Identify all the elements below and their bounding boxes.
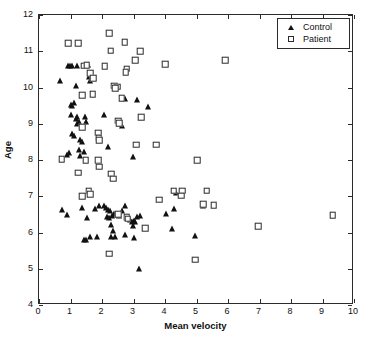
data-point-control — [101, 111, 107, 117]
x-tick-label: 1 — [67, 306, 72, 316]
data-point-control — [137, 213, 143, 219]
data-point-control — [130, 154, 136, 160]
filled-triangle-icon — [284, 25, 298, 30]
y-tick-label: 12 — [23, 9, 33, 19]
data-point-patient — [329, 212, 336, 219]
data-point-patient — [96, 137, 103, 144]
x-axis-tick — [354, 299, 355, 303]
data-point-patient — [194, 157, 201, 164]
data-point-control — [134, 97, 140, 103]
y-tick-label: 7 — [28, 190, 33, 200]
data-point-patient — [121, 39, 128, 46]
data-point-patient — [89, 91, 96, 98]
y-tick-label: 8 — [28, 154, 33, 164]
data-points-layer — [39, 15, 352, 303]
y-tick-label: 5 — [28, 263, 33, 273]
y-tick-label: 10 — [23, 82, 33, 92]
data-point-patient — [178, 192, 185, 199]
data-point-patient — [122, 69, 129, 76]
data-point-control — [79, 138, 85, 144]
data-point-patient — [106, 30, 113, 37]
x-tick-label: 7 — [256, 306, 261, 316]
legend-item-patient: Patient — [278, 33, 349, 45]
data-point-patient — [112, 85, 119, 92]
data-point-control — [94, 233, 100, 239]
scatter-plot-figure: 012345678910 456789101112 Mean velocity … — [0, 0, 367, 341]
data-point-patient — [84, 62, 91, 69]
x-tick-label: 6 — [224, 306, 229, 316]
data-point-patient — [79, 193, 86, 200]
data-point-control — [169, 225, 175, 231]
data-point-control — [122, 232, 128, 238]
data-point-patient — [203, 188, 210, 195]
x-axis-title: Mean velocity — [38, 320, 353, 331]
x-tick-label: 8 — [287, 306, 292, 316]
data-point-patient — [138, 114, 145, 121]
data-point-patient — [222, 57, 229, 64]
data-point-patient — [101, 63, 108, 70]
plot-area — [38, 14, 353, 304]
data-point-patient — [90, 75, 97, 82]
data-point-control — [87, 233, 93, 239]
data-point-patient — [115, 211, 122, 218]
data-point-patient — [156, 197, 163, 204]
data-point-patient — [108, 47, 115, 54]
data-point-control — [171, 205, 177, 211]
y-tick-label: 11 — [24, 45, 33, 55]
x-tick-label: 9 — [319, 306, 324, 316]
legend-label-patient: Patient — [298, 34, 331, 44]
data-point-patient — [132, 57, 139, 64]
data-point-patient — [79, 124, 86, 131]
y-tick-label: 9 — [28, 118, 33, 128]
data-point-patient — [75, 169, 82, 176]
data-point-control — [110, 227, 116, 233]
data-point-control — [105, 144, 111, 150]
data-point-control — [163, 210, 169, 216]
x-axis-tick — [354, 15, 355, 19]
data-point-control — [64, 212, 70, 218]
y-tick-label: 6 — [28, 227, 33, 237]
x-tick-label: 2 — [98, 306, 103, 316]
data-point-patient — [137, 48, 144, 55]
x-tick-label: 3 — [130, 306, 135, 316]
x-tick-label: 5 — [193, 306, 198, 316]
data-point-patient — [142, 225, 149, 232]
open-square-icon — [284, 36, 298, 42]
data-point-patient — [106, 250, 113, 257]
y-tick-label: 4 — [28, 299, 33, 309]
x-tick-label: 4 — [161, 306, 166, 316]
data-point-patient — [171, 188, 178, 195]
data-point-control — [108, 221, 114, 227]
data-point-patient — [133, 141, 140, 148]
data-point-patient — [82, 157, 89, 164]
data-point-patient — [118, 95, 125, 102]
x-tick-label: 0 — [35, 306, 40, 316]
data-point-patient — [200, 201, 207, 208]
data-point-control — [57, 77, 63, 83]
data-point-control — [131, 234, 137, 240]
data-point-control — [192, 233, 198, 239]
data-point-patient — [162, 61, 169, 68]
data-point-control — [79, 204, 85, 210]
data-point-patient — [79, 92, 86, 99]
data-point-control — [122, 203, 128, 209]
legend-item-control: Control — [278, 21, 349, 33]
data-point-patient — [110, 176, 117, 183]
data-point-patient — [116, 120, 123, 127]
data-point-patient — [192, 256, 199, 263]
data-point-patient — [211, 202, 218, 209]
legend: Control Patient — [277, 18, 350, 49]
data-point-control — [145, 104, 151, 110]
x-tick-label: 10 — [348, 306, 358, 316]
y-axis-title: Age — [2, 141, 13, 159]
data-point-patient — [153, 141, 160, 148]
data-point-control — [112, 233, 118, 239]
data-point-control — [66, 150, 72, 156]
data-point-control — [73, 82, 79, 88]
data-point-patient — [87, 191, 94, 198]
data-point-patient — [96, 163, 103, 170]
data-point-patient — [58, 156, 65, 163]
data-point-patient — [75, 40, 82, 47]
data-point-patient — [65, 40, 72, 47]
data-point-patient — [255, 223, 262, 230]
